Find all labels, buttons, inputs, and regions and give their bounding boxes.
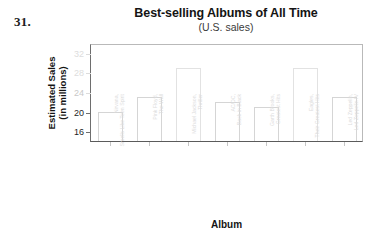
chart-title: Best-selling Albums of All Time (88, 6, 364, 20)
x-axis-tick-mark (227, 142, 228, 146)
x-axis-category-label-line1: Led Zeppelin, (347, 94, 353, 125)
x-axis-category-label-line2: The Wall (158, 94, 164, 150)
problem-number: 31. (14, 14, 31, 30)
x-axis-category-label: AC/DC,Back in Black (231, 94, 243, 150)
x-axis-category-label-line2: Led Zeppelin IV (353, 94, 359, 150)
x-axis-category-label-line2: Back in Black (236, 94, 242, 150)
x-axis-category-label: Led Zeppelin,Led Zeppelin IV (348, 94, 360, 150)
x-axis-category-label: Nirvana,Smells Like Teen Spirit (114, 94, 126, 150)
y-axis-tick-label: 28 (12, 69, 84, 78)
x-axis-category-label-line1: Garth Brooks, (269, 94, 275, 126)
y-axis-tick-label: 32 (12, 50, 84, 59)
chart-subtitle: (U.S. sales) (88, 21, 364, 33)
y-axis-tick-mark (86, 93, 91, 94)
x-axis-category-label-line2: Their Greatest Hits (314, 94, 320, 150)
y-axis-tick-mark (86, 113, 91, 114)
y-axis-tick-mark (86, 73, 91, 74)
x-axis-category-label-line1: Pink Floyd, (152, 94, 158, 120)
x-axis-tick-mark (344, 142, 345, 146)
y-axis-tick-label: 24 (12, 89, 84, 98)
y-axis-tick-label: 16 (12, 128, 84, 137)
x-axis-tick-mark (305, 142, 306, 146)
x-axis-category-label-line1: Nirvana, (113, 94, 119, 113)
x-axis-category-label-line1: AC/DC, (230, 94, 236, 112)
x-axis-category-label: Michael Jackson,Thriller (192, 94, 204, 150)
y-axis-tick-mark (86, 54, 91, 55)
x-axis-category-label: Pink Floyd,The Wall (153, 94, 165, 150)
x-axis-tick-mark (188, 142, 189, 146)
x-axis-category-label: Eagles,Their Greatest Hits (309, 94, 321, 150)
x-axis-tick-mark (266, 142, 267, 146)
x-axis-title: Album (90, 219, 363, 230)
x-axis-category-label-line1: Eagles, (308, 94, 314, 111)
x-axis-category-label-line1: Michael Jackson, (191, 94, 197, 134)
plot-area (90, 44, 363, 142)
x-axis-category-label: Garth Brooks,Greatest Hits (270, 94, 282, 150)
x-axis-category-label-line2: Greatest Hits (275, 94, 281, 150)
y-axis-tick-mark (86, 132, 91, 133)
x-axis-category-label-line2: Smells Like Teen Spirit (119, 94, 125, 150)
y-axis-tick-label: 20 (12, 109, 84, 118)
x-axis-category-label-line2: Thriller (197, 94, 203, 150)
x-axis-tick-mark (110, 142, 111, 146)
x-axis-tick-mark (149, 142, 150, 146)
